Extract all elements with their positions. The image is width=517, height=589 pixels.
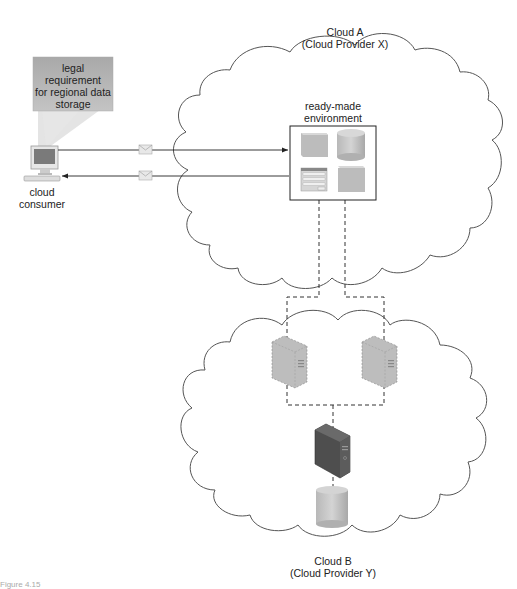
callout-beam bbox=[38, 110, 100, 148]
envelope-icon bbox=[139, 171, 152, 180]
cube-icon bbox=[301, 133, 328, 157]
cloud-a-provider: (Cloud Provider X) bbox=[290, 38, 400, 50]
consumer-label-line2: consumer bbox=[12, 198, 72, 210]
cloud-b-title: Cloud B (Cloud Provider Y) bbox=[278, 555, 388, 579]
cloud-a-title: Cloud A (Cloud Provider X) bbox=[290, 26, 400, 50]
cloud-consumer-label: cloud consumer bbox=[12, 186, 72, 210]
virtual-server-left bbox=[272, 336, 307, 388]
computer-icon bbox=[24, 146, 60, 181]
cube-icon bbox=[338, 166, 365, 192]
environment-label: ready-made environment bbox=[280, 100, 386, 124]
callout-line1: legal requirement bbox=[33, 62, 113, 86]
callout-text: legal requirement for regional data stor… bbox=[33, 62, 113, 110]
database-icon bbox=[316, 486, 348, 528]
diagram-canvas: Cloud A (Cloud Provider X) ready-made en… bbox=[0, 0, 517, 589]
consumer-label-line1: cloud bbox=[12, 186, 72, 198]
cloud-b-provider: (Cloud Provider Y) bbox=[278, 567, 388, 579]
database-icon bbox=[337, 129, 365, 161]
environment-label-line2: environment bbox=[280, 112, 386, 124]
figure-caption: Figure 4.15 bbox=[0, 580, 40, 589]
ready-made-environment bbox=[290, 126, 376, 200]
callout-line3: storage bbox=[33, 98, 113, 110]
cloud-a-name: Cloud A bbox=[290, 26, 400, 38]
callout-line2: for regional data bbox=[33, 86, 113, 98]
envelope-icon bbox=[139, 145, 152, 154]
cloud-b-name: Cloud B bbox=[278, 555, 388, 567]
environment-label-line1: ready-made bbox=[280, 100, 386, 112]
application-window-icon bbox=[301, 168, 327, 191]
virtual-server-right bbox=[362, 336, 397, 388]
